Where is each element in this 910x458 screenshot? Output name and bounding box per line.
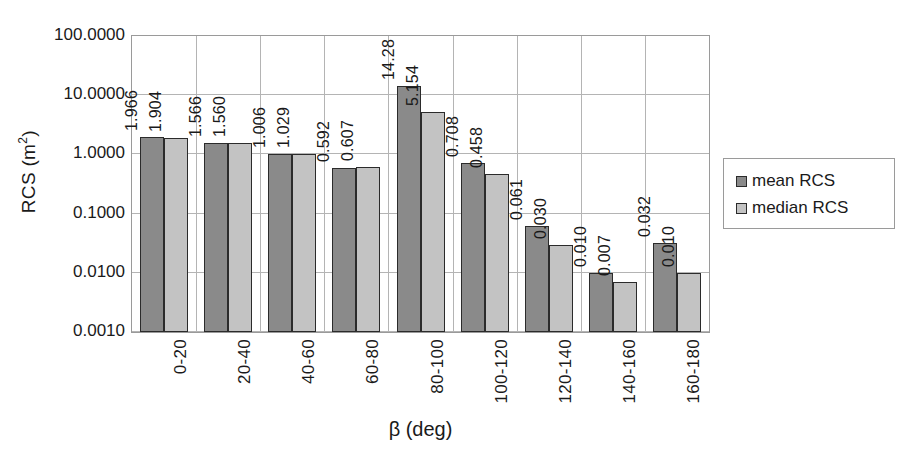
bar-value-label: 0.592 (315, 121, 333, 162)
bar-mean-rcs (140, 137, 164, 332)
x-axis-tick-label: 20-40 (235, 339, 255, 384)
legend-label-median-rcs: median RCS (752, 198, 848, 218)
bar-mean-rcs (268, 154, 292, 332)
y-axis-tick-label: 1.0000 (37, 143, 125, 163)
bar-median-rcs (549, 245, 573, 332)
bar-median-rcs (677, 273, 701, 332)
x-axis-tick-label: 100-120 (492, 339, 512, 404)
bar-value-label: 0.007 (596, 235, 614, 276)
bar-value-label: 1.566 (187, 96, 205, 137)
chart-legend: mean RCS median RCS (723, 158, 895, 229)
legend-label-mean-rcs: mean RCS (752, 171, 835, 191)
bar-value-label: 1.029 (275, 107, 293, 148)
bar-median-rcs (228, 143, 252, 332)
y-axis-tick-label: 0.0010 (37, 321, 125, 341)
x-axis-tick-label: 40-60 (299, 339, 319, 384)
x-axis-tick-label: 60-80 (363, 339, 383, 384)
bar-median-rcs (356, 167, 380, 332)
x-axis-tick-label: 160-180 (684, 339, 704, 404)
bar-median-rcs (613, 282, 637, 332)
bar-value-label: 0.458 (468, 127, 486, 168)
bar-mean-rcs (397, 86, 421, 332)
bar-value-label: 1.006 (251, 107, 269, 148)
bar-value-label: 1.560 (211, 96, 229, 137)
legend-swatch-median-rcs (736, 203, 747, 214)
x-gridline (453, 36, 454, 332)
bar-mean-rcs (525, 226, 549, 332)
chart-figure: RCS (m2) 100.000010.00001.00000.10000.01… (0, 0, 910, 458)
bar-value-label: 1.966 (123, 90, 141, 131)
bar-value-label: 0.010 (660, 226, 678, 267)
legend-item-median-rcs[interactable]: median RCS (736, 198, 884, 218)
bar-mean-rcs (461, 163, 485, 332)
bar-value-label: 5.154 (404, 65, 422, 106)
bar-value-label: 14.28 (380, 39, 398, 80)
bar-value-label: 0.708 (444, 116, 462, 157)
x-gridline (645, 36, 646, 332)
bar-median-rcs (164, 138, 188, 332)
plot-area: 1.9661.9041.5661.5601.0061.0290.5920.607… (131, 35, 710, 333)
bar-mean-rcs (589, 273, 613, 332)
y-axis-tick-label: 0.0100 (37, 262, 125, 282)
x-gridline (581, 36, 582, 332)
x-axis-title: β (deg) (131, 418, 710, 441)
y-axis-tick-label: 100.0000 (37, 25, 125, 45)
y-axis-tick-label: 0.1000 (37, 203, 125, 223)
bar-median-rcs (485, 174, 509, 332)
bar-value-label: 0.010 (572, 226, 590, 267)
bar-value-label: 1.904 (147, 91, 165, 132)
bar-value-label: 0.030 (532, 198, 550, 239)
bar-mean-rcs (332, 168, 356, 332)
y-axis-tick-label: 10.0000 (37, 84, 125, 104)
x-axis-tick-label: 120-140 (556, 339, 576, 404)
bar-value-label: 0.607 (339, 120, 357, 161)
bar-median-rcs (421, 112, 445, 332)
x-axis-tick-labels: 0-2020-4040-6060-8080-100100-120120-1401… (131, 333, 710, 413)
x-gridline (388, 36, 389, 332)
y-axis-tick-labels: 100.000010.00001.00000.10000.01000.0010 (35, 35, 125, 333)
x-gridline (196, 36, 197, 332)
x-gridline (260, 36, 261, 332)
bar-mean-rcs (204, 143, 228, 332)
y-axis-title-exponent: 2 (16, 137, 30, 144)
bar-value-label: 0.032 (636, 196, 654, 237)
legend-item-mean-rcs[interactable]: mean RCS (736, 171, 884, 191)
x-axis-tick-label: 0-20 (171, 339, 191, 374)
x-gridline (324, 36, 325, 332)
x-axis-tick-label: 80-100 (428, 339, 448, 394)
bar-median-rcs (292, 154, 316, 332)
x-axis-tick-label: 140-160 (620, 339, 640, 404)
bar-value-label: 0.061 (508, 179, 526, 220)
legend-swatch-mean-rcs (736, 176, 747, 187)
